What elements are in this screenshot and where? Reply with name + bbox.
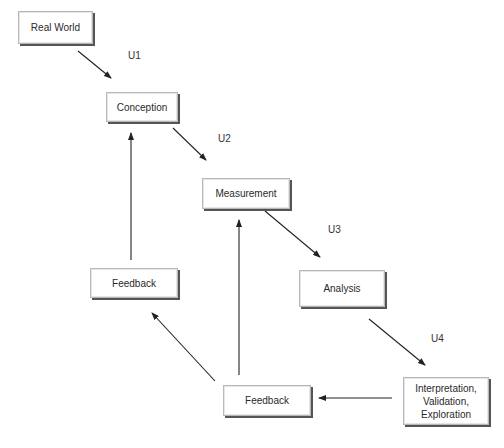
edge-label-u4: U4 — [431, 333, 444, 344]
node-measurement: Measurement — [202, 178, 290, 209]
arrow-real-world-to-conception — [78, 51, 111, 78]
edge-label-u3: U3 — [328, 224, 341, 235]
arrow-measurement-to-analysis — [265, 211, 320, 257]
arrow-feedback-to-feedback — [152, 313, 215, 381]
node-interpretation: Interpretation, Validation, Exploration — [403, 377, 489, 425]
edge-label-u2: U2 — [218, 133, 231, 144]
node-feedback-bottom: Feedback — [223, 385, 311, 416]
node-conception: Conception — [106, 92, 178, 122]
node-analysis: Analysis — [299, 270, 385, 307]
arrow-conception-to-measurement — [173, 128, 206, 160]
edge-label-u1: U1 — [128, 50, 141, 61]
node-real-world: Real World — [18, 11, 93, 44]
arrow-analysis-to-interpretation — [369, 319, 425, 365]
node-feedback-left: Feedback — [90, 268, 178, 298]
diagram-canvas: Real World Conception Measurement Analys… — [0, 0, 504, 448]
